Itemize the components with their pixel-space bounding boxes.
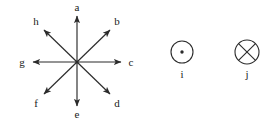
arrow-d [77, 62, 110, 94]
arrow-label-b: b [114, 16, 120, 27]
vector-direction-figure: abcdefghij [0, 0, 280, 120]
arrow-label-f: f [34, 98, 38, 109]
field-symbol-group [171, 40, 259, 64]
symbol-label-i: i [180, 69, 183, 80]
symbol-j [235, 40, 259, 64]
arrow-b [77, 30, 110, 62]
arrow-f [44, 62, 77, 94]
star-center-hub [75, 60, 78, 63]
arrow-label-c: c [129, 57, 134, 68]
out-of-page-dot-icon [180, 50, 183, 53]
symbol-i [171, 41, 193, 63]
star-origin-dot [75, 60, 78, 63]
symbol-label-j: j [245, 69, 248, 80]
arrow-label-e: e [75, 109, 80, 120]
arrow-label-a: a [75, 2, 80, 13]
figure-canvas [0, 0, 280, 120]
arrow-label-h: h [33, 16, 39, 27]
arrow-label-g: g [19, 57, 25, 68]
arrow-label-d: d [114, 98, 120, 109]
arrow-h [44, 30, 77, 62]
